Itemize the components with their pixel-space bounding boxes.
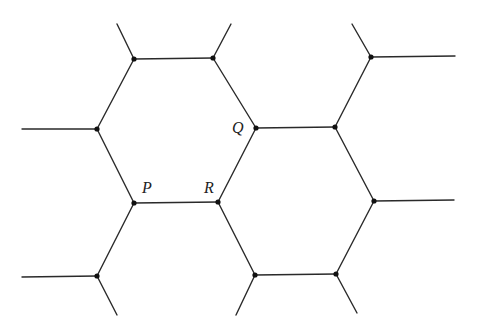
- vertex-dot-p: [131, 200, 136, 205]
- lattice-edge: [256, 127, 335, 128]
- vertex-dot-f: [371, 198, 376, 203]
- lattice-edge: [236, 275, 255, 315]
- hexagon-lattice-diagram: Q P R: [0, 0, 484, 316]
- vertex-dot-r: [215, 199, 220, 204]
- lattice-edge: [97, 59, 134, 129]
- lattice-edge: [134, 58, 213, 59]
- lattice-edge: [22, 276, 97, 277]
- lattice-edge: [255, 274, 336, 275]
- lattice-edge: [97, 203, 134, 276]
- lattice-graphic: [0, 0, 484, 316]
- vertex-label-q: Q: [232, 120, 244, 136]
- lattice-edge: [218, 202, 255, 275]
- vertex-dot-q: [253, 125, 258, 130]
- lattice-edge: [374, 200, 454, 201]
- lattice-edge: [213, 24, 231, 58]
- lattice-edge: [218, 128, 256, 202]
- vertex-dot-h: [252, 272, 257, 277]
- lattice-edge: [371, 56, 455, 57]
- lattice-edge: [335, 57, 371, 127]
- vertex-dot-d: [332, 124, 337, 129]
- lattice-edge: [336, 201, 374, 274]
- lattice-edge: [117, 24, 134, 59]
- vertex-dot-c: [94, 126, 99, 131]
- lattice-edge: [352, 24, 371, 57]
- lattice-edge: [335, 127, 374, 201]
- lattice-edge: [97, 276, 117, 315]
- vertex-dot-i: [333, 271, 338, 276]
- lattice-edge: [213, 58, 256, 128]
- vertex-dot-b: [210, 55, 215, 60]
- vertex-dot-e: [368, 54, 373, 59]
- lattice-edge: [336, 274, 357, 313]
- vertex-dot-a: [131, 56, 136, 61]
- lattice-edge: [134, 202, 218, 203]
- vertex-label-p: P: [142, 180, 152, 196]
- vertex-dot-g: [94, 273, 99, 278]
- lattice-edge: [97, 129, 134, 203]
- vertex-label-r: R: [204, 180, 214, 196]
